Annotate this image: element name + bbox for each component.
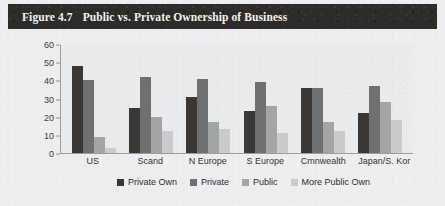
y-axis-tick-label: 20 [44, 113, 54, 123]
bar [197, 79, 208, 153]
bar [255, 82, 266, 153]
bar [358, 113, 369, 153]
figure-container: Figure 4.7Public vs. Private Ownership o… [0, 0, 445, 206]
bar [140, 77, 151, 153]
bar-group [244, 45, 288, 153]
legend-swatch-icon [190, 179, 197, 186]
legend-swatch-icon [117, 179, 124, 186]
legend-label: Private Own [128, 177, 177, 187]
x-axis-tick-label: Scand [128, 156, 172, 172]
bar [208, 122, 219, 153]
y-axis-tick-label: 50 [44, 58, 54, 68]
bar [323, 122, 334, 153]
chart-legend: Private OwnPrivatePublicMore Public Own [60, 175, 427, 189]
y-axis-tick-label: 30 [44, 95, 54, 105]
legend-swatch-icon [242, 179, 249, 186]
bar [369, 86, 380, 153]
bar [105, 148, 116, 153]
bar-groups [61, 45, 413, 153]
legend-swatch-icon [291, 179, 298, 186]
legend-label: Private [201, 177, 229, 187]
x-axis-tick-label: N Europe [186, 156, 230, 172]
bar [312, 88, 323, 153]
bar-group [186, 45, 230, 153]
bar [277, 133, 288, 153]
bar-group [301, 45, 345, 153]
figure-title: Figure 4.7Public vs. Private Ownership o… [8, 11, 287, 23]
bar [219, 129, 230, 153]
legend-entry: Public [242, 177, 278, 187]
legend-entry: Private Own [117, 177, 177, 187]
bar [162, 131, 173, 153]
bar-group [129, 45, 173, 153]
y-axis-tick-label: 60 [44, 40, 54, 50]
figure-title-text: Public vs. Private Ownership of Business [83, 11, 288, 23]
y-axis: 0102030405060 [8, 45, 60, 154]
x-axis: USScandN EuropeS EuropeCmnwealthJapan/S.… [60, 156, 413, 172]
bar [151, 117, 162, 153]
x-axis-tick-label: Japan/S. Kor [358, 156, 402, 172]
bar-group [72, 45, 116, 153]
legend-label: More Public Own [302, 177, 371, 187]
bar [334, 131, 345, 153]
bar [72, 66, 83, 153]
bar [391, 120, 402, 153]
y-axis-tick-label: 0 [49, 149, 54, 159]
y-axis-tick-label: 40 [44, 76, 54, 86]
figure-title-bar: Figure 4.7Public vs. Private Ownership o… [8, 4, 437, 29]
bar-group [358, 45, 402, 153]
bar [266, 106, 277, 153]
y-axis-tick-label: 10 [44, 131, 54, 141]
bar [380, 102, 391, 153]
legend-entry: Private [190, 177, 229, 187]
x-axis-tick-label: S Europe [243, 156, 287, 172]
bar [186, 97, 197, 153]
bar [129, 108, 140, 153]
legend-label: Public [253, 177, 278, 187]
bar [83, 80, 94, 153]
bar [301, 88, 312, 153]
chart-plot-area: 0102030405060 USScandN EuropeS EuropeCmn… [8, 33, 437, 193]
figure-number: Figure 4.7 [22, 11, 73, 23]
bar [94, 137, 105, 153]
legend-entry: More Public Own [291, 177, 371, 187]
x-axis-tick-label: Cmnwealth [301, 156, 345, 172]
x-axis-tick-label: US [71, 156, 115, 172]
bar [244, 111, 255, 153]
chart-panel [60, 45, 413, 154]
